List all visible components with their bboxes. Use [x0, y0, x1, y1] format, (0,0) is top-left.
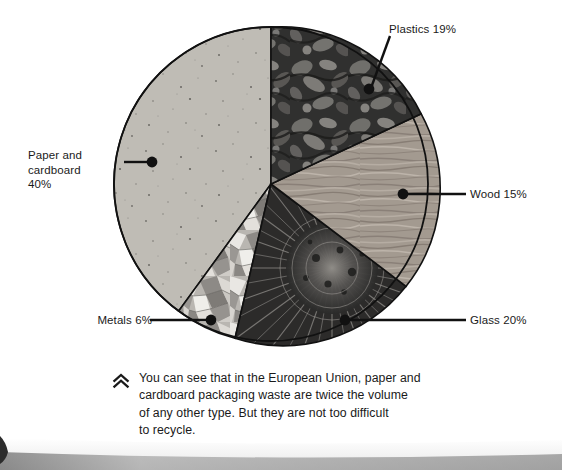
caption-block: You can see that in the European Union, …	[112, 370, 472, 440]
leader-dot-paper	[147, 157, 158, 168]
pie-label-paper-and-cardboard: Paper and cardboard 40%	[28, 148, 120, 192]
pie-label-wood: Wood 15%	[470, 187, 560, 202]
leader-dot-metals	[206, 315, 217, 326]
caption-text: You can see that in the European Union, …	[139, 370, 421, 440]
pie-label-metals: Metals 6%	[72, 313, 152, 328]
pie-chart-figure: Paper and cardboard 40% Plastics 19% Woo…	[0, 0, 562, 356]
page-canvas: Paper and cardboard 40% Plastics 19% Woo…	[0, 0, 562, 470]
leader-dot-wood	[398, 189, 409, 200]
pie-label-plastics: Plastics 19%	[389, 22, 519, 37]
pie-label-glass: Glass 20%	[470, 313, 560, 328]
leader-dot-plastics	[364, 84, 375, 95]
chevron-double-up-icon	[112, 372, 130, 390]
leader-dot-glass	[340, 315, 351, 326]
